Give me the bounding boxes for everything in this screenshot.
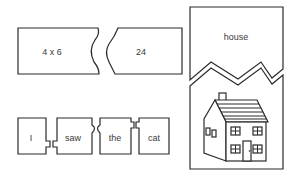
window [253, 127, 262, 135]
puzzle-piece-4x6: 4 x 6 [18, 28, 99, 74]
piece-label: cat [148, 133, 161, 143]
puzzle-piece-24: 24 [107, 28, 183, 74]
word-piece-the: the [98, 118, 135, 154]
word-piece-saw: saw [53, 118, 95, 154]
piece-label: house [224, 32, 249, 42]
word-piece-i: I [18, 118, 50, 154]
window [253, 145, 262, 153]
window [231, 145, 240, 153]
puzzle-piece-house-picture [190, 68, 283, 169]
piece-label: the [109, 133, 122, 143]
piece-label: 24 [136, 47, 146, 57]
window [231, 127, 240, 135]
piece-label: 4 x 6 [42, 47, 62, 57]
word-piece-cat: cat [136, 118, 169, 154]
house-icon [204, 93, 268, 161]
piece-label: saw [65, 133, 82, 143]
puzzle-pieces-figure: 4 x 6 24 house [0, 0, 299, 178]
piece-label: I [30, 133, 33, 143]
puzzle-piece-house-word: house [190, 7, 283, 80]
